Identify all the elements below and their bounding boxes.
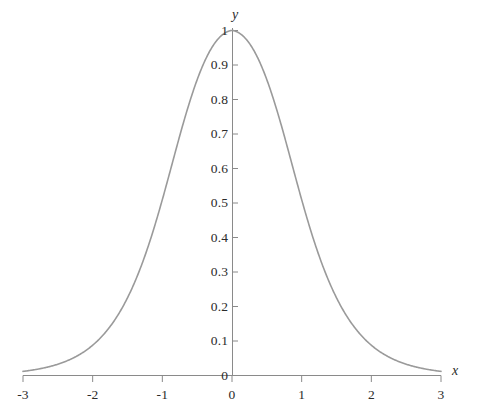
x-tick-label: 2 <box>351 388 391 402</box>
y-tick-label: 0.8 <box>184 93 228 107</box>
x-tick-label: 3 <box>421 388 461 402</box>
x-tick-label: -2 <box>73 388 113 402</box>
x-tick-label: 0 <box>212 388 252 402</box>
y-axis-ticks <box>233 31 239 376</box>
x-tick-label: 1 <box>282 388 322 402</box>
y-tick-label: 0.6 <box>184 162 228 176</box>
y-tick-label: 0.9 <box>184 58 228 72</box>
y-tick-label: 0.5 <box>184 196 228 210</box>
y-tick-label: 0.1 <box>184 334 228 348</box>
bell-curve-plot: -3-2-10123 00.10.20.30.40.50.60.70.80.91… <box>0 0 478 417</box>
y-tick-label: 0.7 <box>184 127 228 141</box>
y-tick-label: 0.2 <box>184 300 228 314</box>
x-tick-label: -3 <box>3 388 43 402</box>
y-tick-label: 0.3 <box>184 265 228 279</box>
x-axis-label: x <box>452 364 458 378</box>
y-axis-label: y <box>232 8 238 22</box>
y-tick-label: 0.4 <box>184 231 228 245</box>
x-axis-ticks <box>23 376 441 383</box>
x-tick-label: -1 <box>142 388 182 402</box>
y-tick-label: 0 <box>184 369 228 383</box>
plot-canvas <box>0 0 478 417</box>
y-tick-label: 1 <box>184 24 228 38</box>
